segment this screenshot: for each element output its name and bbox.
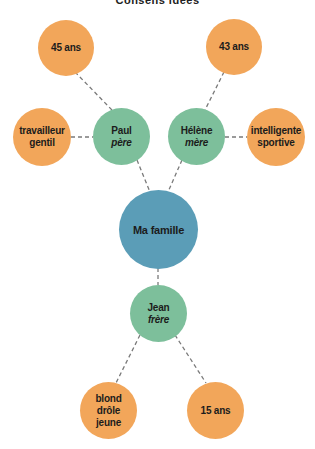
person-node-jean: Jean frère xyxy=(130,285,187,342)
person-name: Jean xyxy=(148,302,170,314)
jean-traits-node: blond drôle jeune xyxy=(80,382,137,439)
center-label: Ma famille xyxy=(133,224,184,236)
node-label: 15 ans xyxy=(201,405,231,417)
person-relation: mère xyxy=(185,137,208,149)
jean-age-node: 15 ans xyxy=(187,382,244,439)
person-node-paul: Paul père xyxy=(93,108,150,165)
person-node-helene: Hélène mère xyxy=(168,108,225,165)
person-relation: frère xyxy=(148,314,169,326)
trait-label: travailleur xyxy=(19,125,65,137)
trait-label: sportive xyxy=(257,137,294,149)
person-name: Paul xyxy=(111,125,131,137)
paul-age-node: 45 ans xyxy=(38,20,94,76)
helene-age-node: 43 ans xyxy=(206,19,262,75)
node-label: 45 ans xyxy=(51,42,81,54)
trait-label: blond xyxy=(95,393,121,405)
person-relation: père xyxy=(111,137,131,149)
trait-label: jeune xyxy=(96,417,121,429)
center-node: Ma famille xyxy=(119,190,198,269)
trait-label: intelligente xyxy=(251,125,301,137)
trait-label: drôle xyxy=(97,405,120,417)
helene-traits-node: intelligente sportive xyxy=(247,108,305,166)
trait-label: gentil xyxy=(29,137,54,149)
paul-traits-node: travailleur gentil xyxy=(13,108,71,166)
person-name: Hélène xyxy=(181,125,213,137)
node-label: 43 ans xyxy=(219,41,249,53)
